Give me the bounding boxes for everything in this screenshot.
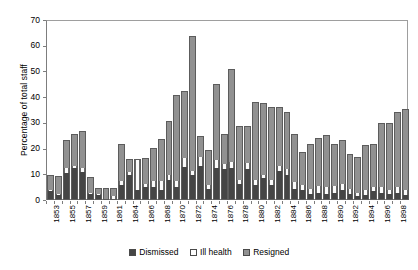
bar-segment-resigned [80, 132, 85, 168]
bar-segment-dismissed [96, 195, 101, 199]
bar-segment-illhealth [111, 196, 116, 199]
x-axis-tick-mark [377, 201, 378, 204]
bar-segment-resigned [104, 189, 109, 199]
bar-segment-dismissed [167, 180, 172, 199]
x-axis-tick-label: 1859 [101, 205, 109, 223]
bar-segment-resigned [363, 146, 368, 190]
bar-1857 [80, 132, 85, 199]
bar-1888 [316, 139, 321, 199]
y-axis-title: Percentage of total staff [19, 30, 29, 190]
legend-item-ill-health: Ill health [190, 247, 232, 257]
x-axis-tick-mark [125, 201, 126, 204]
bar-segment-dismissed [80, 172, 85, 199]
plot-area [46, 20, 408, 200]
bar-series-group [47, 21, 407, 199]
x-axis-tick-label: 1888 [321, 205, 329, 223]
bar-segment-resigned [151, 149, 156, 181]
bar-1864 [127, 160, 132, 199]
bar-segment-dismissed [229, 168, 234, 199]
bar-segment-dismissed [332, 193, 337, 199]
bar-segment-dismissed [403, 195, 408, 199]
bar-1873 [198, 137, 203, 199]
bar-segment-resigned [277, 108, 282, 166]
bar-segment-dismissed [316, 193, 321, 199]
bar-segment-dismissed [72, 168, 77, 199]
x-axis-tick-label: 1878 [242, 205, 250, 223]
bar-segment-dismissed [64, 173, 69, 199]
bar-1867 [151, 149, 156, 199]
x-axis: 1853185518571859186118641866186818701872… [46, 201, 408, 245]
bar-segment-resigned [111, 189, 116, 197]
y-axis-tick-label: 50 [14, 67, 40, 76]
bar-segment-illhealth [135, 160, 140, 190]
x-axis-tick-mark [101, 201, 102, 204]
x-axis-tick-label: 1884 [290, 205, 298, 223]
x-axis-tick-label: 1855 [69, 205, 77, 223]
x-axis-tick-mark [148, 201, 149, 204]
legend-item-dismissed: Dismissed [129, 247, 179, 257]
x-axis-tick-mark [298, 201, 299, 204]
x-axis-tick-label: 1868 [164, 205, 172, 223]
bar-segment-resigned [395, 113, 400, 188]
bar-segment-dismissed [48, 191, 53, 199]
x-axis-tick-mark [235, 201, 236, 204]
x-axis-tick-label: 1882 [274, 205, 282, 223]
bar-segment-illhealth [214, 160, 219, 168]
x-axis-tick-mark [140, 201, 141, 204]
bar-1872 [190, 37, 195, 199]
bar-1886 [300, 153, 305, 199]
x-axis-tick-mark [172, 201, 173, 204]
bar-1893 [355, 158, 360, 199]
bar-segment-resigned [292, 135, 297, 183]
bar-segment-resigned [245, 127, 250, 163]
x-axis-tick-label: 1870 [179, 205, 187, 223]
legend-item-resigned: Resigned [243, 247, 289, 257]
bar-segment-resigned [316, 139, 321, 187]
x-axis-tick-mark [243, 201, 244, 204]
x-axis-tick-mark [188, 201, 189, 204]
bar-1891 [340, 141, 345, 199]
x-axis-tick-mark [345, 201, 346, 204]
bar-segment-resigned [56, 177, 61, 194]
bar-segment-resigned [379, 124, 384, 187]
bar-1875 [214, 85, 219, 199]
x-axis-tick-mark [180, 201, 181, 204]
bar-segment-resigned [371, 145, 376, 187]
bar-1874 [206, 151, 211, 199]
x-axis-tick-mark [109, 201, 110, 204]
x-axis-tick-label: 1880 [258, 205, 266, 223]
x-axis-tick-label: 1896 [384, 205, 392, 223]
bar-1898 [395, 113, 400, 199]
x-axis-tick-label: 1890 [337, 205, 345, 223]
bar-segment-resigned [332, 145, 337, 186]
x-axis-tick-mark [392, 201, 393, 204]
x-axis-tick-mark [93, 201, 94, 204]
bar-segment-dismissed [222, 169, 227, 199]
bar-1865 [135, 160, 140, 199]
legend-label-ill-health: Ill health [200, 247, 232, 257]
bar-1885 [292, 135, 297, 199]
x-axis-tick-mark [282, 201, 283, 204]
x-axis-tick-mark [353, 201, 354, 204]
bar-segment-illhealth [159, 181, 164, 190]
x-axis-tick-mark [290, 201, 291, 204]
x-axis-tick-mark [77, 201, 78, 204]
x-axis-tick-mark [400, 201, 401, 204]
y-axis-tick-label: 0 [14, 196, 40, 205]
bar-segment-dismissed [159, 190, 164, 199]
x-axis-tick-label: 1857 [85, 205, 93, 223]
x-axis-tick-mark [274, 201, 275, 204]
y-axis-tick-label: 60 [14, 41, 40, 50]
x-axis-tick-mark [369, 201, 370, 204]
bar-segment-dismissed [371, 191, 376, 199]
bar-segment-dismissed [119, 185, 124, 199]
bar-segment-dismissed [300, 190, 305, 199]
bar-segment-dismissed [245, 169, 250, 199]
bar-1890 [332, 145, 337, 199]
bar-segment-dismissed [292, 189, 297, 199]
bar-segment-resigned [206, 151, 211, 184]
bar-segment-resigned [222, 135, 227, 165]
bar-1894 [363, 146, 368, 199]
bar-segment-dismissed [348, 194, 353, 199]
bar-segment-resigned [403, 110, 408, 190]
